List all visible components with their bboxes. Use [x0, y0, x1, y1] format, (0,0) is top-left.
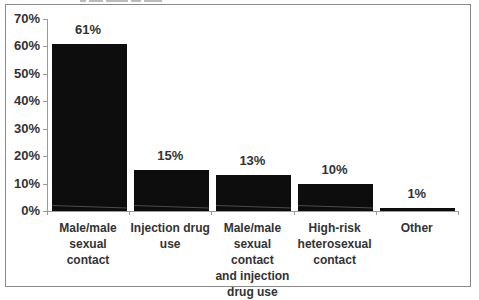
x-tick [211, 211, 212, 215]
y-tick-label: 30% [4, 122, 40, 136]
y-tick-label: 10% [4, 177, 40, 191]
y-tick [43, 156, 47, 157]
scan-artifact-line [52, 205, 127, 209]
value-label: 13% [211, 153, 293, 168]
bar [134, 170, 209, 211]
category-label: High-risk heterosexual contact [294, 220, 376, 268]
y-tick-label: 0% [4, 204, 40, 218]
y-tick-label: 40% [4, 94, 40, 108]
bar [380, 208, 455, 211]
y-tick [43, 46, 47, 47]
cropped-title-fragment [80, 0, 200, 3]
category-label: Male/male sexual contact and injection d… [211, 220, 293, 300]
y-axis [47, 19, 48, 212]
y-tick [43, 129, 47, 130]
x-tick [376, 211, 377, 215]
y-tick-label: 50% [4, 67, 40, 81]
x-tick [129, 211, 130, 215]
bar [216, 175, 291, 211]
x-tick [458, 211, 459, 215]
bar [298, 184, 373, 211]
x-tick [47, 211, 48, 215]
y-tick [43, 19, 47, 20]
scan-artifact-line [216, 205, 291, 209]
scan-artifact-line [134, 205, 209, 209]
y-tick-label: 60% [4, 39, 40, 53]
value-label: 61% [47, 22, 129, 37]
x-tick [294, 211, 295, 215]
category-label: Other [376, 220, 458, 236]
y-tick [43, 74, 47, 75]
y-tick-label: 70% [4, 12, 40, 26]
value-label: 1% [376, 186, 458, 201]
value-label: 10% [294, 162, 376, 177]
category-label: Injection drug use [129, 220, 211, 252]
value-label: 15% [129, 148, 211, 163]
y-tick-label: 20% [4, 149, 40, 163]
bar [52, 44, 127, 211]
scan-artifact-line [298, 205, 373, 209]
x-axis [47, 211, 459, 212]
y-tick [43, 101, 47, 102]
category-label: Male/male sexual contact [47, 220, 129, 268]
y-tick [43, 184, 47, 185]
